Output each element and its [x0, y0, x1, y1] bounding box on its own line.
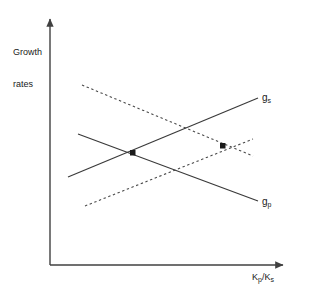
x-axis-label-sub-p: p: [258, 276, 262, 283]
y-axis-label-line1: Growth: [13, 47, 42, 58]
curve-label-gs-sub: s: [268, 97, 272, 104]
diagram-canvas: [0, 0, 312, 304]
curve-label-gp-main: g: [262, 196, 268, 207]
x-axis-label: Kp/Ks: [252, 272, 274, 284]
curve-label-gs-main: g: [262, 92, 268, 103]
curve-label-gp: gp: [262, 196, 271, 208]
y-axis-label: Growth rates: [13, 26, 42, 110]
initial-equilibrium-point: [130, 150, 136, 156]
curve-label-gp-sub: p: [268, 201, 272, 208]
growth-rates-diagram: Growth rates Kp/Ks gs gp: [0, 0, 312, 304]
curve-gp: [78, 134, 258, 201]
curve-label-gs: gs: [262, 92, 271, 104]
curve-gs-shifted: [85, 139, 253, 206]
new-equilibrium-point: [220, 143, 226, 149]
x-axis-label-sub-s: s: [270, 276, 274, 283]
y-axis-label-line2: rates: [13, 79, 42, 90]
